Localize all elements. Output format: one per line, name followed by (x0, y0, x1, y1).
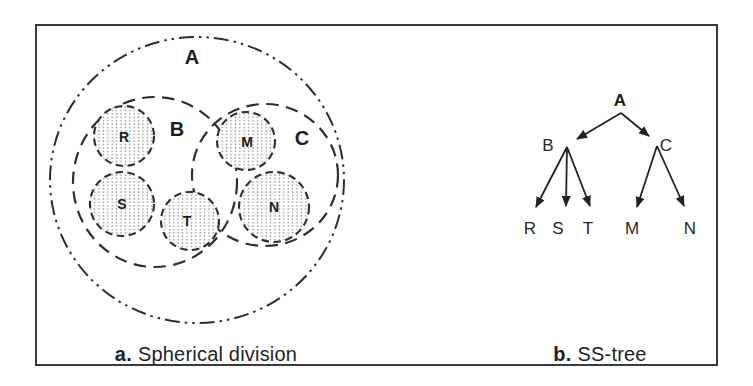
sphere-a-label: A (185, 46, 199, 68)
sphere-m-label: M (241, 134, 253, 150)
tree-edge-a-b (577, 113, 621, 139)
tree-edge-b-r (536, 147, 567, 207)
sphere-r-label: R (119, 129, 129, 145)
tree-edge-b-s (566, 147, 567, 206)
sphere-b-label: B (170, 118, 184, 140)
figure: A B C R S T M N A B C R S T M (0, 0, 753, 386)
tree-edge-c-m (637, 146, 657, 207)
diagram-canvas: A B C R S T M N A B C R S T M (0, 0, 753, 386)
caption-ss-tree: b.SS-tree (540, 343, 660, 366)
caption-a-label: Spherical division (138, 343, 297, 365)
caption-a-prefix: a. (115, 343, 132, 365)
tree-node-b: B (542, 136, 553, 155)
sphere-c-label: C (295, 127, 309, 149)
tree-node-c: C (660, 136, 672, 155)
tree-leaf-t: T (583, 219, 593, 238)
tree-leaf-r: R (524, 219, 536, 238)
caption-b-prefix: b. (553, 343, 571, 365)
tree-leaf-s: S (552, 219, 563, 238)
sphere-t-label: T (183, 213, 192, 229)
tree-node-a: A (614, 91, 626, 110)
spherical-division-panel: A B C R S T M N (50, 37, 344, 323)
sphere-s-label: S (117, 196, 126, 212)
tree-edge-a-c (621, 113, 649, 136)
tree-leaf-m: M (625, 219, 639, 238)
tree-leaf-n: N (684, 219, 696, 238)
ss-tree-panel: A B C R S T M N (524, 91, 696, 238)
tree-edge-c-n (657, 146, 684, 206)
sphere-n-label: N (269, 199, 279, 215)
sphere-a-circle (50, 37, 344, 323)
caption-spherical-division: a.Spherical division (96, 343, 316, 366)
caption-b-label: SS-tree (577, 343, 646, 365)
tree-edge-b-t (567, 147, 590, 206)
